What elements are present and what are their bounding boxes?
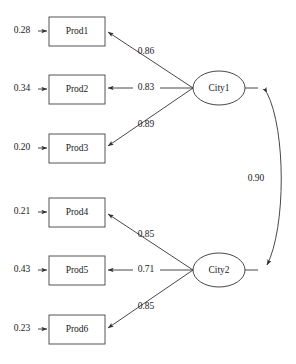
sem-path-diagram: Prod1 Prod2 Prod3 Prod4 Prod5 Prod6 City… — [0, 0, 296, 364]
indicator-label-prod5: Prod5 — [66, 265, 89, 275]
residual-value-prod4: 0.21 — [14, 206, 31, 216]
loading-value-city1-prod1: 0.86 — [138, 46, 155, 56]
indicator-label-prod4: Prod4 — [66, 207, 89, 217]
covariance-value-city1-city2: 0.90 — [248, 173, 265, 183]
loading-path-city2-prod6 — [108, 270, 193, 328]
loading-value-city2-prod6: 0.85 — [138, 301, 155, 311]
loading-path-city1-prod1 — [108, 32, 193, 88]
indicator-boxes — [49, 17, 105, 344]
loading-value-city1-prod3: 0.89 — [138, 119, 155, 129]
residual-value-prod3: 0.20 — [14, 142, 31, 152]
residual-value-prod5: 0.43 — [14, 264, 31, 274]
indicator-label-prod1: Prod1 — [66, 26, 89, 36]
loading-value-city2-prod5: 0.71 — [138, 264, 155, 274]
indicator-label-prod6: Prod6 — [66, 324, 89, 334]
indicator-label-prod3: Prod3 — [66, 143, 89, 153]
loading-value-city2-prod4: 0.85 — [138, 229, 155, 239]
indicator-labels: Prod1 Prod2 Prod3 Prod4 Prod5 Prod6 — [66, 26, 89, 334]
diagram-canvas: Prod1 Prod2 Prod3 Prod4 Prod5 Prod6 City… — [0, 0, 296, 364]
loading-path-city1-prod3 — [108, 88, 193, 146]
factor-ellipses — [193, 71, 245, 287]
residual-values: 0.28 0.34 0.20 0.21 0.43 0.23 — [14, 25, 31, 333]
factor-label-city2: City2 — [208, 265, 229, 275]
factor-label-city1: City1 — [208, 83, 229, 93]
residual-value-prod1: 0.28 — [14, 25, 31, 35]
residual-arrows — [38, 31, 47, 329]
loading-values: 0.86 0.83 0.89 0.85 0.71 0.85 — [138, 46, 155, 311]
residual-value-prod2: 0.34 — [14, 83, 31, 93]
factor-labels: City1 City2 — [208, 83, 229, 275]
loading-value-city1-prod2: 0.83 — [138, 82, 155, 92]
indicator-label-prod2: Prod2 — [66, 84, 89, 94]
covariance-curve — [267, 93, 281, 265]
loading-path-city2-prod4 — [108, 214, 193, 270]
residual-value-prod6: 0.23 — [14, 323, 31, 333]
